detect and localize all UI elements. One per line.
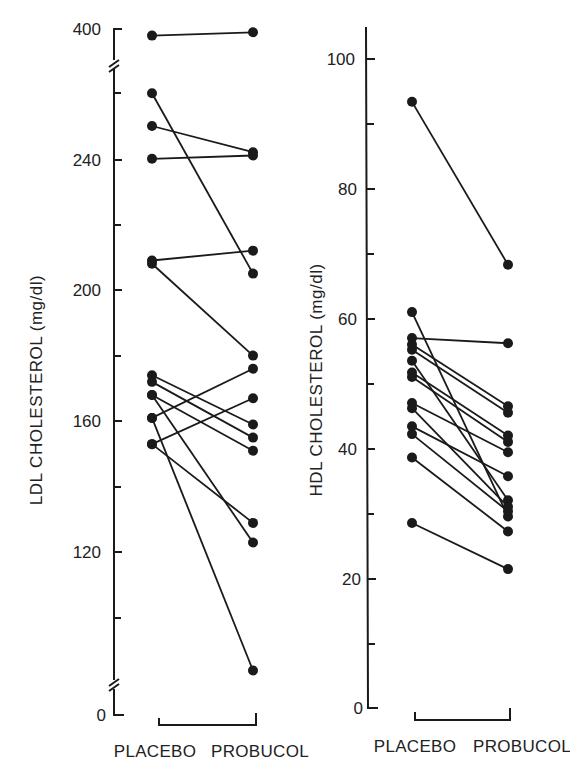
pair-line [152,93,253,273]
probucol-point [503,338,513,348]
placebo-point [147,259,157,269]
hdl-panel: HDL CHOLESTEROL (mg/dl) 100 80 60 40 20 … [307,27,570,756]
placebo-point [407,307,417,317]
pair-line [152,395,253,451]
data-pair [147,88,258,278]
hdl-data-pairs [407,97,513,574]
pair-line [412,408,508,507]
pair-line [152,156,253,159]
placebo-point [147,88,157,98]
probucol-point [248,518,258,528]
probucol-point [248,419,258,429]
data-pair [407,518,513,574]
placebo-point [147,390,157,400]
pair-line [152,398,253,444]
hdl-axis-title: HDL CHOLESTEROL (mg/dl) [307,263,326,496]
placebo-point [147,413,157,423]
hdl-tick-100: 100 [327,50,355,69]
ldl-panel: LDL CHOLESTEROL (mg/dl) 400 240 200 160 … [27,20,309,761]
data-pair [407,356,513,506]
hdl-label-probucol: PROBUCOL [473,737,570,756]
probucol-point [503,437,513,447]
data-pair [147,439,258,528]
placebo-point [407,372,417,382]
placebo-point [147,377,157,387]
ldl-tick-400: 400 [73,20,101,39]
hdl-tick-labels: 100 80 60 40 20 0 [327,50,363,718]
pair-line [152,444,253,523]
probucol-point [503,447,513,457]
placebo-point [147,154,157,164]
placebo-point [407,403,417,413]
placebo-point [407,356,417,366]
placebo-point [407,97,417,107]
probucol-point [248,433,258,443]
data-pair [147,259,258,361]
placebo-point [407,429,417,439]
placebo-point [407,345,417,355]
data-pair [147,151,258,164]
hdl-tick-60: 60 [338,310,357,329]
ldl-y-axis [109,29,124,715]
data-pair [147,364,258,423]
placebo-point [147,121,157,131]
pair-line [152,126,253,152]
probucol-point [503,408,513,418]
pair-line [152,251,253,261]
placebo-point [407,518,417,528]
placebo-point [407,452,417,462]
probucol-point [503,260,513,270]
hdl-label-placebo: PLACEBO [374,737,456,756]
hdl-category-bracket [415,708,510,720]
probucol-point [248,393,258,403]
data-pair [147,246,258,266]
probucol-point [248,27,258,37]
probucol-point [248,351,258,361]
probucol-point [248,151,258,161]
pair-line [412,523,508,569]
ldl-data-pairs [147,27,258,675]
data-pair [407,429,513,516]
data-pair [147,121,258,157]
data-pair [147,27,258,40]
hdl-tick-40: 40 [338,440,357,459]
placebo-point [147,439,157,449]
probucol-point [503,506,513,516]
data-pair [407,97,513,270]
ldl-label-placebo: PLACEBO [114,742,196,761]
ldl-label-probucol: PROBUCOL [211,742,309,761]
hdl-y-axis [366,27,378,708]
probucol-point [503,564,513,574]
probucol-point [248,269,258,279]
pair-line [152,32,253,35]
ldl-tick-240: 240 [73,151,101,170]
pair-line [412,345,508,407]
pair-line [412,102,508,265]
hdl-tick-80: 80 [338,180,357,199]
ldl-tick-0: 0 [97,706,106,725]
data-pair [147,377,258,443]
ldl-axis-title: LDL CHOLESTEROL (mg/dl) [27,275,46,505]
probucol-point [248,538,258,548]
pair-line [152,264,253,356]
ldl-category-bracket [159,713,256,725]
ldl-tick-200: 200 [73,281,101,300]
probucol-point [503,471,513,481]
ldl-tick-labels: 400 240 200 160 120 0 [73,20,106,725]
hdl-tick-0: 0 [354,699,363,718]
hdl-tick-20: 20 [342,570,361,589]
probucol-cholesterol-figure: LDL CHOLESTEROL (mg/dl) 400 240 200 160 … [0,0,570,772]
probucol-point [248,364,258,374]
data-pair [407,345,513,418]
probucol-point [248,246,258,256]
placebo-point [147,31,157,41]
probucol-point [248,665,258,675]
probucol-point [248,446,258,456]
ldl-tick-160: 160 [73,412,101,431]
data-pair [147,390,258,548]
ldl-tick-120: 120 [73,543,101,562]
probucol-point [503,526,513,536]
